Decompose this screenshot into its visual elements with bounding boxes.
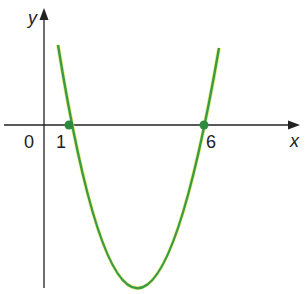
y-axis-label: y bbox=[28, 8, 37, 29]
origin-label: 0 bbox=[24, 132, 34, 153]
root-point-6 bbox=[200, 121, 209, 130]
y-axis-arrow-icon bbox=[40, 8, 49, 20]
x-axis-arrow-icon bbox=[288, 121, 300, 130]
x-axis-label: x bbox=[290, 131, 299, 152]
root-point-1 bbox=[65, 121, 74, 130]
tick-label-6: 6 bbox=[206, 132, 216, 153]
tick-label-1: 1 bbox=[56, 132, 66, 153]
parabola-curve-core bbox=[58, 45, 219, 288]
parabola-chart bbox=[0, 0, 307, 294]
